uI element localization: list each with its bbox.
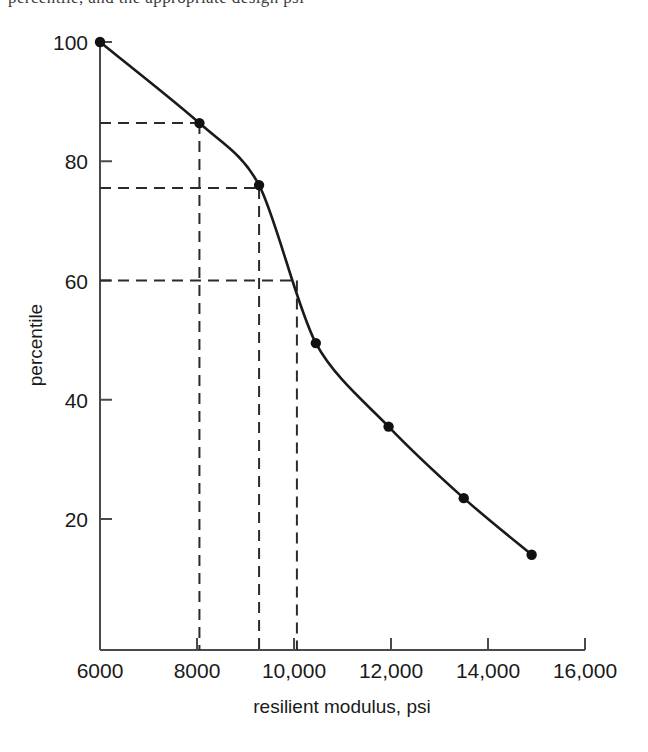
page-text-sliver-label: percentile, and the appropriate design p…	[8, 0, 304, 8]
y-axis-tick-labels: 20406080100	[53, 31, 88, 531]
x-axis-tick-labels: 6000800010,00012,00014,00016,000	[77, 659, 617, 682]
data-point	[383, 421, 393, 431]
page-text-sliver: percentile, and the appropriate design p…	[0, 0, 648, 10]
data-point-markers	[95, 37, 537, 560]
x-axis-title: resilient modulus, psi	[253, 696, 430, 717]
data-point	[459, 493, 469, 503]
data-point	[526, 550, 536, 560]
figure-container: percentile, and the appropriate design p…	[0, 0, 648, 752]
y-axis-title: percentile	[25, 304, 46, 386]
y-tick-label: 40	[65, 389, 88, 412]
data-point	[311, 338, 321, 348]
x-axis-ticks	[197, 638, 585, 650]
data-point	[194, 118, 204, 128]
x-tick-label: 14,000	[456, 659, 520, 682]
percentile-curve	[100, 42, 532, 555]
y-tick-label: 20	[65, 508, 88, 531]
x-tick-label: 6000	[77, 659, 124, 682]
x-tick-label: 12,000	[359, 659, 423, 682]
axes-group	[100, 38, 585, 650]
x-tick-label: 8000	[174, 659, 221, 682]
data-point	[254, 180, 264, 190]
data-point	[95, 37, 105, 47]
y-tick-label: 80	[65, 150, 88, 173]
percentile-vs-resilient-modulus-chart: 20406080100 6000800010,00012,00014,00016…	[0, 0, 648, 752]
y-tick-label: 60	[65, 270, 88, 293]
x-tick-label: 10,000	[262, 659, 326, 682]
y-tick-label: 100	[53, 31, 88, 54]
x-tick-label: 16,000	[553, 659, 617, 682]
